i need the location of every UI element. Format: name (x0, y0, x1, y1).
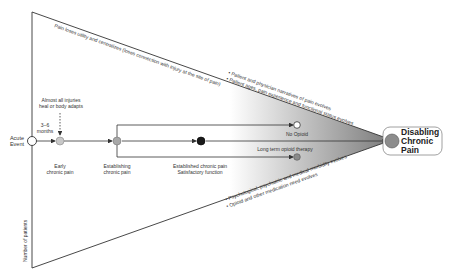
established-chronic-pain-node (197, 137, 205, 145)
end-label-line3: Pain (401, 145, 419, 155)
heal-note-line2: heal or body adapts (39, 103, 83, 109)
y-axis-label: Number of patients (22, 219, 28, 262)
acute-event-node (28, 137, 37, 146)
established-label-line2: Satisfactory function (177, 169, 222, 175)
disabling-chronic-pain-node (385, 134, 399, 148)
early-chronic-pain-node (56, 137, 64, 145)
acute-label-line2: Event (10, 141, 25, 147)
establishing-label-line2: chronic pain (104, 169, 131, 175)
establishing-chronic-pain-node (113, 137, 121, 145)
long-term-opioid-label: Long term opioid therapy (257, 146, 313, 152)
timing-line2: months (37, 128, 54, 134)
chronic-pain-funnel-diagram: Disabling Chronic Pain Acute Event 3–6 m… (0, 0, 449, 276)
funnel-area (32, 12, 392, 268)
early-label-line2: chronic pain (47, 169, 74, 175)
no-opioid-label: No Opioid (286, 131, 308, 137)
long-term-opioid-node (294, 154, 301, 161)
no-opioid-node (294, 122, 301, 129)
